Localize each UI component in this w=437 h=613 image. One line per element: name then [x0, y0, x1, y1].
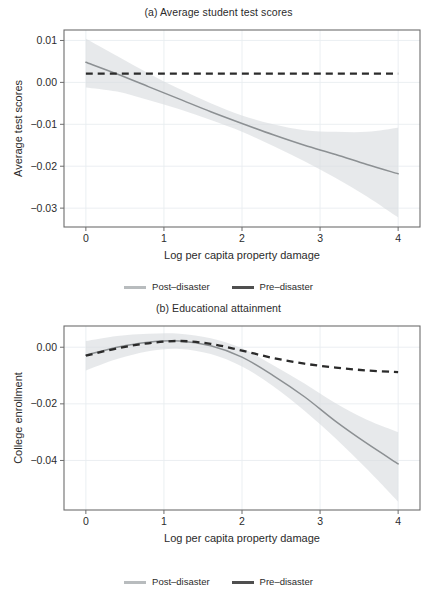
panel-a-svg: 012340.010.00−0.01−0.02−0.03Log per capi… [0, 22, 437, 280]
x-axis-label: Log per capita property damage [164, 532, 320, 544]
legend-label-pre-disaster: Pre–disaster [260, 577, 313, 587]
x-tick-label: 1 [161, 515, 167, 527]
y-axis-label: Average test scores [12, 79, 24, 177]
x-tick-label: 3 [317, 515, 323, 527]
legend-swatch-pre-disaster-icon [232, 581, 254, 584]
y-tick-label: −0.02 [30, 397, 57, 409]
x-tick-label: 3 [317, 232, 323, 244]
figure-container: (a) Average student test scores 012340.0… [0, 0, 437, 613]
y-tick-label: −0.03 [30, 202, 57, 214]
y-tick-label: −0.01 [30, 118, 57, 130]
panel-a-plot: 012340.010.00−0.01−0.02−0.03Log per capi… [0, 22, 437, 280]
panel-b-svg: 012340.00−0.02−0.04Log per capita proper… [0, 318, 437, 574]
y-tick-label: 0.00 [37, 341, 58, 353]
legend-swatch-post-disaster-icon [124, 581, 146, 584]
panel-b: (b) Educational attainment 012340.00−0.0… [0, 302, 437, 591]
x-tick-label: 0 [83, 232, 89, 244]
y-tick-label: 0.00 [37, 76, 58, 88]
y-tick-label: −0.02 [30, 160, 57, 172]
legend-item-post-disaster: Post–disaster [124, 577, 210, 587]
x-tick-label: 0 [83, 515, 89, 527]
panel-b-legend: Post–disaster Pre–disaster [0, 573, 437, 591]
x-axis-label: Log per capita property damage [164, 249, 320, 261]
x-tick-label: 2 [239, 232, 245, 244]
x-tick-label: 2 [239, 515, 245, 527]
legend-label-post-disaster: Post–disaster [152, 282, 210, 292]
x-tick-label: 4 [395, 232, 401, 244]
panel-a-legend: Post–disaster Pre–disaster [0, 278, 437, 296]
legend-label-pre-disaster: Pre–disaster [260, 282, 313, 292]
panel-b-title: (b) Educational attainment [0, 302, 437, 318]
legend-label-post-disaster: Post–disaster [152, 577, 210, 587]
panel-b-plot: 012340.00−0.02−0.04Log per capita proper… [0, 318, 437, 574]
legend-swatch-pre-disaster-icon [232, 286, 254, 289]
y-tick-label: −0.04 [30, 454, 57, 466]
legend-item-post-disaster: Post–disaster [124, 282, 210, 292]
y-axis-label: College enrollment [12, 372, 24, 464]
x-tick-label: 4 [395, 515, 401, 527]
y-tick-label: 0.01 [37, 34, 58, 46]
legend-item-pre-disaster: Pre–disaster [232, 577, 313, 587]
panel-a: (a) Average student test scores 012340.0… [0, 0, 437, 296]
panel-a-title: (a) Average student test scores [0, 0, 437, 22]
legend-swatch-post-disaster-icon [124, 286, 146, 289]
legend-item-pre-disaster: Pre–disaster [232, 282, 313, 292]
x-tick-label: 1 [161, 232, 167, 244]
